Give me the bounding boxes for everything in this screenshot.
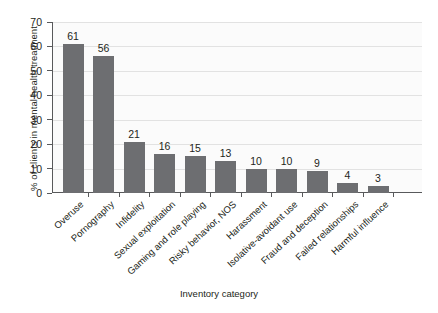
x-category-label: Harmful influence [330, 199, 391, 256]
x-tick-mark [393, 193, 394, 197]
bar-value-label: 21 [114, 129, 154, 140]
bar [368, 186, 389, 193]
y-tick-label: 0 [8, 188, 42, 199]
bar [63, 44, 84, 193]
bar [246, 169, 267, 193]
bar [307, 171, 328, 193]
x-tick-mark [88, 193, 89, 197]
y-tick-mark [47, 193, 52, 194]
bar [276, 169, 297, 193]
y-tick-label: 60 [8, 41, 42, 52]
bar [215, 161, 236, 193]
y-tick-label: 50 [8, 66, 42, 77]
x-tick-mark [363, 193, 364, 197]
y-tick-mark [47, 168, 52, 169]
x-tick-mark [149, 193, 150, 197]
bar [337, 183, 358, 193]
y-tick-label: 20 [8, 139, 42, 150]
y-tick-label: 10 [8, 164, 42, 175]
x-tick-mark [241, 193, 242, 197]
bar-chart: % of clients in mental health treatment … [0, 0, 438, 313]
x-tick-mark [180, 193, 181, 197]
y-tick-mark [47, 95, 52, 96]
y-tick-mark [47, 70, 52, 71]
y-tick-mark [47, 119, 52, 120]
x-tick-mark [119, 193, 120, 197]
bar-value-label: 61 [53, 31, 93, 42]
gridline [53, 22, 422, 23]
x-axis-title: Inventory category [0, 288, 438, 299]
bar [93, 56, 114, 193]
bar-value-label: 56 [84, 43, 124, 54]
y-tick-mark [47, 22, 52, 23]
bar [185, 156, 206, 193]
y-tick-mark [47, 46, 52, 47]
x-tick-mark [302, 193, 303, 197]
bar [124, 142, 145, 193]
y-tick-mark [47, 144, 52, 145]
bar-value-label: 3 [358, 173, 398, 184]
bar [154, 154, 175, 193]
x-tick-mark [210, 193, 211, 197]
bar-value-label: 9 [297, 158, 337, 169]
y-tick-label: 40 [8, 90, 42, 101]
x-tick-mark [332, 193, 333, 197]
y-tick-label: 70 [8, 17, 42, 28]
x-tick-mark [271, 193, 272, 197]
y-tick-label: 30 [8, 115, 42, 126]
